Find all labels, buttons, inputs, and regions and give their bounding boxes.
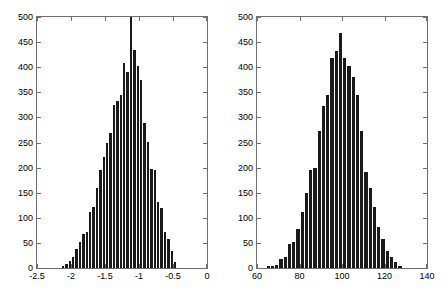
- x-tick: [385, 264, 386, 268]
- x-tick: [37, 264, 38, 268]
- y-tick-label: 200: [18, 163, 33, 173]
- histogram-bars-right: [257, 17, 427, 268]
- x-tick-mirror: [173, 17, 174, 21]
- x-tick-label: 120: [377, 271, 392, 281]
- x-tick: [257, 264, 258, 268]
- y-tick-label: 500: [18, 12, 33, 22]
- y-tick-mirror: [203, 218, 207, 219]
- x-tick: [300, 264, 301, 268]
- y-tick: [257, 92, 261, 93]
- histogram-bars-left: [37, 17, 207, 268]
- y-tick: [257, 67, 261, 68]
- y-tick: [37, 42, 41, 43]
- x-tick: [173, 264, 174, 268]
- y-tick: [37, 168, 41, 169]
- x-tick-label: -1: [135, 271, 143, 281]
- x-tick: [105, 264, 106, 268]
- x-tick: [426, 264, 427, 268]
- x-tick-label: 80: [294, 271, 304, 281]
- subplot-left: 050100150200250300350400450500 -2.5-2-1.…: [0, 0, 224, 291]
- x-tick-label: -1.5: [97, 271, 113, 281]
- y-tick-mirror: [423, 243, 427, 244]
- y-tick: [37, 193, 41, 194]
- x-tick-mirror: [385, 17, 386, 21]
- y-tick-mirror: [203, 67, 207, 68]
- x-tick-mirror: [37, 17, 38, 21]
- x-tick: [342, 264, 343, 268]
- y-tick-label: 400: [18, 62, 33, 72]
- y-tick-mirror: [423, 218, 427, 219]
- x-tick-label: 100: [334, 271, 349, 281]
- y-tick-label: 100: [238, 213, 253, 223]
- subplot-right: 050100150200250300350400450500 608010012…: [224, 0, 448, 291]
- x-tick: [71, 264, 72, 268]
- x-tick-mirror: [300, 17, 301, 21]
- y-tick-label: 500: [238, 12, 253, 22]
- y-tick-label: 150: [18, 188, 33, 198]
- y-tick: [257, 268, 261, 269]
- y-tick: [257, 42, 261, 43]
- y-tick-mirror: [203, 268, 207, 269]
- y-tick: [37, 243, 41, 244]
- y-tick-mirror: [423, 67, 427, 68]
- y-tick: [257, 168, 261, 169]
- x-tick: [206, 264, 207, 268]
- x-tick-mirror: [105, 17, 106, 21]
- y-tick-label: 100: [18, 213, 33, 223]
- y-tick-mirror: [203, 117, 207, 118]
- x-tick-mirror: [342, 17, 343, 21]
- plot-axes-left: 050100150200250300350400450500 -2.5-2-1.…: [36, 16, 208, 269]
- y-tick-mirror: [423, 143, 427, 144]
- y-tick-mirror: [203, 193, 207, 194]
- x-tick-mirror: [71, 17, 72, 21]
- x-tick-label: -0.5: [165, 271, 181, 281]
- plot-axes-right: 050100150200250300350400450500 608010012…: [256, 16, 428, 269]
- y-tick: [257, 117, 261, 118]
- y-tick-label: 50: [23, 238, 33, 248]
- x-tick-mirror: [206, 17, 207, 21]
- figure-container: 050100150200250300350400450500 -2.5-2-1.…: [0, 0, 448, 291]
- y-tick-mirror: [423, 92, 427, 93]
- x-tick: [139, 264, 140, 268]
- x-tick-label: -2: [67, 271, 75, 281]
- y-tick-mirror: [203, 243, 207, 244]
- y-tick-mirror: [423, 42, 427, 43]
- y-tick-label: 350: [238, 87, 253, 97]
- y-tick-label: 400: [238, 62, 253, 72]
- y-tick-label: 150: [238, 188, 253, 198]
- y-tick-label: 200: [238, 163, 253, 173]
- y-tick-label: 300: [18, 112, 33, 122]
- y-tick: [37, 268, 41, 269]
- y-tick: [37, 218, 41, 219]
- y-tick-label: 50: [243, 238, 253, 248]
- y-tick-mirror: [423, 193, 427, 194]
- y-tick-mirror: [203, 143, 207, 144]
- x-tick-label: 0: [204, 271, 209, 281]
- y-tick-label: 300: [238, 112, 253, 122]
- y-tick: [37, 92, 41, 93]
- x-tick-mirror: [426, 17, 427, 21]
- y-tick-label: 250: [18, 138, 33, 148]
- x-tick-label: 60: [252, 271, 262, 281]
- y-tick-mirror: [423, 268, 427, 269]
- y-tick-mirror: [203, 168, 207, 169]
- y-tick: [257, 143, 261, 144]
- y-tick: [257, 243, 261, 244]
- y-tick-label: 450: [238, 37, 253, 47]
- histogram-bar: [397, 266, 401, 269]
- y-tick-mirror: [423, 117, 427, 118]
- y-tick: [37, 143, 41, 144]
- y-tick: [257, 218, 261, 219]
- y-tick-label: 350: [18, 87, 33, 97]
- y-tick-mirror: [423, 168, 427, 169]
- x-tick-label: 140: [419, 271, 434, 281]
- y-tick: [37, 67, 41, 68]
- x-tick-label: -2.5: [29, 271, 45, 281]
- y-tick: [37, 117, 41, 118]
- y-tick-label: 250: [238, 138, 253, 148]
- y-tick-mirror: [203, 92, 207, 93]
- y-tick: [257, 193, 261, 194]
- y-tick-label: 450: [18, 37, 33, 47]
- x-tick-mirror: [139, 17, 140, 21]
- x-tick-mirror: [257, 17, 258, 21]
